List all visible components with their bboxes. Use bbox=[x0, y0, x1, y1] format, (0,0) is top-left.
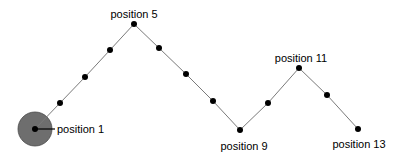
position-marker-7 bbox=[183, 71, 189, 77]
position-marker-13 bbox=[355, 126, 361, 132]
position-marker-10 bbox=[265, 100, 271, 106]
position-labels: position 1position 5position 9position 1… bbox=[57, 8, 386, 152]
label-position-11: position 11 bbox=[275, 52, 327, 64]
position-marker-9 bbox=[237, 127, 243, 133]
position-marker-5 bbox=[131, 21, 137, 27]
position-marker-3 bbox=[82, 74, 88, 80]
position-marker-2 bbox=[57, 100, 63, 106]
position-marker-8 bbox=[210, 98, 216, 104]
position-marker-11 bbox=[296, 65, 302, 71]
label-position-5: position 5 bbox=[110, 8, 157, 20]
position-path-diagram: position 1position 5position 9position 1… bbox=[0, 0, 402, 162]
position-marker-6 bbox=[156, 45, 162, 51]
label-position-9: position 9 bbox=[220, 140, 267, 152]
position-markers bbox=[32, 21, 361, 133]
label-position-13: position 13 bbox=[332, 138, 385, 150]
position-marker-12 bbox=[324, 92, 330, 98]
position-marker-1 bbox=[32, 126, 38, 132]
label-position-1: position 1 bbox=[57, 123, 104, 135]
position-marker-4 bbox=[107, 47, 113, 53]
